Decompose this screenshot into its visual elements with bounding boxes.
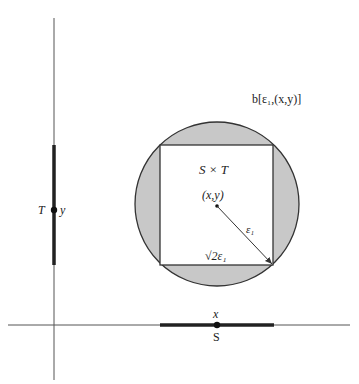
point-y — [51, 207, 57, 213]
side-length-label: √2ε₁ — [205, 250, 227, 262]
product-label: S × T — [199, 163, 228, 176]
diagram-canvas — [0, 0, 359, 384]
horizontal-set-label: S — [213, 331, 220, 343]
radius-label: ε₁ — [246, 224, 254, 235]
horizontal-point-label: x — [213, 308, 218, 320]
vertical-set-label: T — [38, 204, 45, 216]
point-x — [214, 322, 220, 328]
vertical-point-label: y — [60, 204, 65, 216]
ball-label: b[ε₁,(x,y)] — [252, 93, 301, 105]
center-label: (x,y) — [202, 189, 224, 201]
